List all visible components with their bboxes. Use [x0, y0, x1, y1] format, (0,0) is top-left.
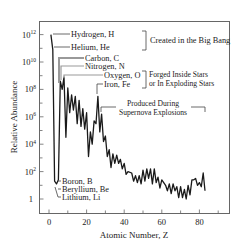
- y-axis-ticks: 101210101081061041021: [22, 29, 44, 204]
- label-forged-2: or In Exploding Stars: [149, 79, 214, 88]
- y-tick-label: 102: [25, 166, 37, 177]
- x-axis-title: Atomic Number, Z: [100, 230, 168, 240]
- label-big-bang: Created in the Big Bang: [150, 36, 230, 45]
- y-tick-label: 1012: [22, 29, 36, 40]
- abundance-chart: 101210101081061041021 020406080 Hydrogen…: [0, 0, 243, 246]
- bracket-big-bang: [142, 31, 146, 50]
- x-tick-label: 40: [120, 217, 129, 227]
- x-tick-label: 60: [158, 217, 167, 227]
- label-forged-1: Forged Inside Stars: [149, 70, 208, 79]
- label-lithium: Lithium, Li: [62, 193, 101, 202]
- bracket-forged: [142, 71, 146, 88]
- label-helium: Helium, He: [71, 43, 110, 52]
- label-oxygen: Oxygen, O: [104, 71, 140, 80]
- y-axis-title: Relative Abundance: [9, 81, 19, 154]
- x-tick-label: 20: [82, 217, 91, 227]
- y-tick-label: 104: [25, 139, 37, 150]
- x-tick-label: 0: [47, 217, 51, 227]
- x-axis-ticks: 020406080: [47, 210, 218, 228]
- label-iron: Iron, Fe: [104, 80, 131, 89]
- label-supernova-2: Supernova Explosions: [119, 108, 187, 117]
- label-hydrogen: Hydrogen, H: [71, 30, 114, 39]
- y-tick-label: 108: [25, 84, 37, 95]
- x-tick-label: 80: [195, 217, 204, 227]
- y-tick-label: 106: [25, 111, 37, 122]
- label-nitrogen: Nitrogen, N: [85, 62, 125, 71]
- y-tick-label: 1: [29, 194, 33, 204]
- label-supernova-1: Produced During: [127, 99, 179, 108]
- y-tick-label: 1010: [22, 57, 36, 68]
